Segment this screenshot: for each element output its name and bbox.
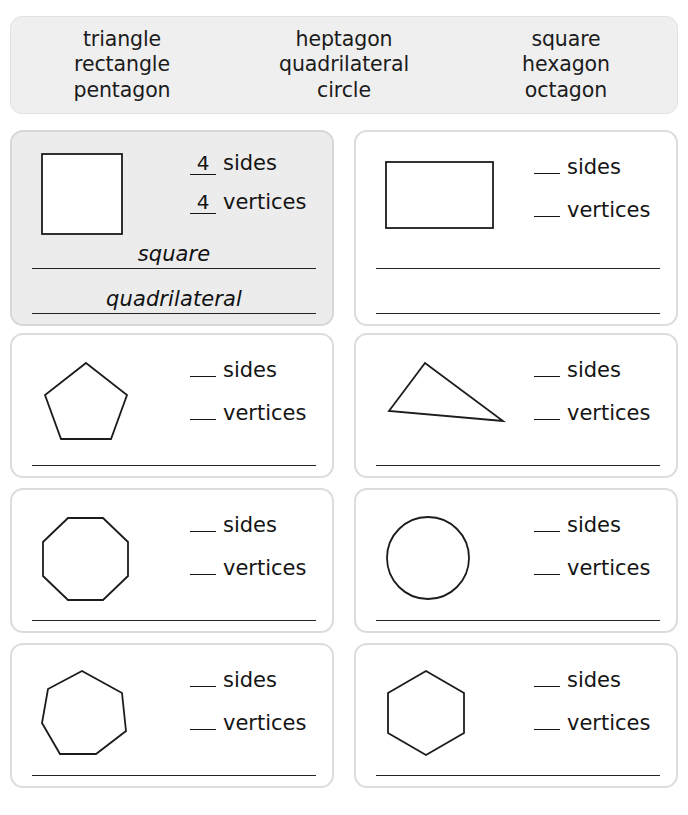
sides-count-line: 4 sides bbox=[190, 152, 306, 175]
shape-card-octagon[interactable]: sides vertices bbox=[10, 488, 334, 633]
vertices-label: vertices bbox=[223, 557, 306, 580]
vertices-blank[interactable]: 4 bbox=[190, 192, 216, 214]
vertices-count-line: vertices bbox=[190, 398, 306, 425]
count-group: sides vertices bbox=[534, 510, 650, 580]
answer-line[interactable] bbox=[376, 586, 660, 621]
shape-card-pentagon[interactable]: sides vertices bbox=[10, 333, 334, 478]
count-group: sides vertices bbox=[534, 665, 650, 735]
vertices-label: vertices bbox=[223, 191, 306, 214]
sides-count-line: sides bbox=[190, 355, 306, 382]
count-group: sides vertices bbox=[190, 665, 306, 735]
shape-card-triangle[interactable]: sides vertices bbox=[354, 333, 678, 478]
sides-count-line: sides bbox=[190, 665, 306, 692]
vertices-count-line: vertices bbox=[534, 553, 650, 580]
sides-count-line: sides bbox=[534, 355, 650, 382]
sides-blank[interactable] bbox=[534, 665, 560, 687]
vertices-blank[interactable] bbox=[534, 553, 560, 575]
vertices-label: vertices bbox=[567, 199, 650, 222]
sides-label: sides bbox=[223, 152, 277, 175]
answer-line[interactable] bbox=[376, 224, 660, 269]
sides-count-line: sides bbox=[534, 665, 650, 692]
answer-line[interactable] bbox=[376, 741, 660, 776]
word-bank-word: circle bbox=[317, 78, 371, 104]
answer-group bbox=[376, 586, 660, 621]
sides-blank[interactable] bbox=[534, 510, 560, 532]
vertices-blank[interactable] bbox=[190, 553, 216, 575]
count-group: sides vertices bbox=[190, 355, 306, 425]
card-row: sides vertices bbox=[0, 333, 688, 488]
answer-group bbox=[32, 586, 316, 621]
sides-label: sides bbox=[567, 156, 621, 179]
vertices-blank[interactable] bbox=[534, 195, 560, 217]
word-bank-word: triangle bbox=[83, 27, 161, 53]
card-row: sides vertices bbox=[0, 643, 688, 798]
sides-label: sides bbox=[223, 514, 277, 537]
answer-group bbox=[32, 431, 316, 466]
vertices-label: vertices bbox=[567, 402, 650, 425]
word-bank-column-2: heptagon quadrilateral circle bbox=[233, 27, 455, 104]
vertices-label: vertices bbox=[223, 712, 306, 735]
vertices-label: vertices bbox=[223, 402, 306, 425]
sides-count-line: sides bbox=[534, 152, 650, 179]
word-bank-word: octagon bbox=[525, 78, 607, 104]
sides-blank[interactable] bbox=[534, 152, 560, 174]
answer-line[interactable] bbox=[376, 269, 660, 314]
count-group: sides vertices bbox=[190, 510, 306, 580]
sides-label: sides bbox=[223, 359, 277, 382]
sides-blank[interactable] bbox=[190, 510, 216, 532]
vertices-label: vertices bbox=[567, 712, 650, 735]
sides-label: sides bbox=[223, 669, 277, 692]
vertices-blank[interactable] bbox=[534, 398, 560, 420]
card-row: sides vertices bbox=[0, 488, 688, 643]
shape-card-heptagon[interactable]: sides vertices bbox=[10, 643, 334, 788]
count-group: sides vertices bbox=[534, 152, 650, 222]
answer-text: square bbox=[32, 243, 316, 266]
answer-group bbox=[32, 741, 316, 776]
vertices-count-line: 4 vertices bbox=[190, 191, 306, 214]
shape-card-circle[interactable]: sides vertices bbox=[354, 488, 678, 633]
answer-text: quadrilateral bbox=[32, 288, 316, 311]
shape-card-grid: 4 sides 4 vertices square quadrilateral bbox=[0, 130, 688, 798]
vertices-blank[interactable] bbox=[534, 708, 560, 730]
vertices-count-line: vertices bbox=[190, 553, 306, 580]
vertices-label: vertices bbox=[567, 557, 650, 580]
word-bank-column-3: square hexagon octagon bbox=[455, 27, 677, 104]
word-bank-word: square bbox=[531, 27, 600, 53]
answer-group bbox=[376, 741, 660, 776]
answer-line[interactable]: quadrilateral bbox=[32, 269, 316, 314]
word-bank-word: rectangle bbox=[74, 52, 170, 78]
answer-line[interactable] bbox=[32, 586, 316, 621]
sides-label: sides bbox=[567, 514, 621, 537]
sides-count-line: sides bbox=[190, 510, 306, 537]
sides-label: sides bbox=[567, 669, 621, 692]
answer-group bbox=[376, 224, 660, 314]
word-bank: triangle rectangle pentagon heptagon qua… bbox=[10, 16, 678, 114]
word-bank-word: heptagon bbox=[296, 27, 393, 53]
vertices-count-line: vertices bbox=[534, 398, 650, 425]
card-row: 4 sides 4 vertices square quadrilateral bbox=[0, 130, 688, 333]
shape-card-hexagon[interactable]: sides vertices bbox=[354, 643, 678, 788]
count-group: sides vertices bbox=[534, 355, 650, 425]
shape-card-square[interactable]: 4 sides 4 vertices square quadrilateral bbox=[10, 130, 334, 326]
word-bank-column-1: triangle rectangle pentagon bbox=[11, 27, 233, 104]
sides-blank[interactable] bbox=[190, 355, 216, 377]
sides-label: sides bbox=[567, 359, 621, 382]
word-bank-word: quadrilateral bbox=[279, 52, 409, 78]
answer-line[interactable] bbox=[32, 431, 316, 466]
word-bank-word: pentagon bbox=[74, 78, 171, 104]
word-bank-word: hexagon bbox=[522, 52, 610, 78]
count-group: 4 sides 4 vertices bbox=[190, 152, 306, 214]
sides-blank[interactable] bbox=[190, 665, 216, 687]
vertices-count-line: vertices bbox=[534, 708, 650, 735]
answer-line[interactable] bbox=[376, 431, 660, 466]
answer-line[interactable] bbox=[32, 741, 316, 776]
shape-card-rectangle[interactable]: sides vertices bbox=[354, 130, 678, 326]
sides-blank[interactable] bbox=[534, 355, 560, 377]
sides-count-line: sides bbox=[534, 510, 650, 537]
answer-group bbox=[376, 431, 660, 466]
answer-line[interactable]: square bbox=[32, 224, 316, 269]
sides-blank[interactable]: 4 bbox=[190, 153, 216, 175]
vertices-blank[interactable] bbox=[190, 708, 216, 730]
vertices-blank[interactable] bbox=[190, 398, 216, 420]
answer-group: square quadrilateral bbox=[32, 224, 316, 314]
